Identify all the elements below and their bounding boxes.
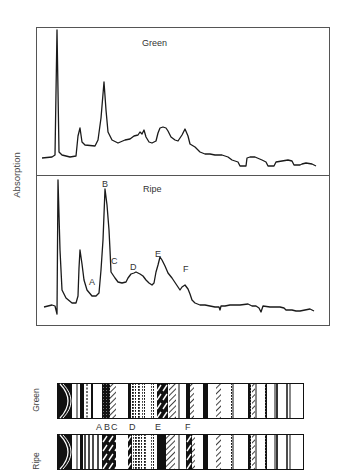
svg-text:C: C — [111, 422, 118, 432]
densitometer-traces: Green Ripe A B C D E F — [0, 0, 344, 340]
panel-title-ripe: Ripe — [143, 184, 162, 194]
peak-label-d: D — [130, 262, 137, 272]
panel-title-green: Green — [142, 38, 167, 48]
peak-label-e: E — [155, 249, 161, 259]
gel-row-label-ripe: Ripe — [31, 446, 43, 472]
peak-label-f: F — [183, 264, 189, 274]
band-label-f: F — [185, 422, 191, 432]
green-trace — [42, 30, 316, 166]
peak-labels: A B C D E F — [89, 179, 189, 287]
gel-strips: A B C D E F — [0, 340, 344, 472]
gel-band-labels: A B C D E F — [96, 422, 191, 432]
band-label-e: E — [155, 422, 161, 432]
ripe-trace — [44, 180, 314, 314]
gel-strip-ripe — [58, 435, 304, 470]
trace-frame — [37, 28, 330, 326]
band-label-abc: A — [96, 422, 102, 432]
band-label-d: D — [129, 422, 136, 432]
peak-label-c: C — [111, 256, 118, 266]
svg-text:B: B — [104, 422, 110, 432]
gel-row-label-green: Green — [31, 385, 43, 415]
peak-label-a: A — [89, 277, 95, 287]
peak-label-b: B — [102, 179, 108, 189]
gel-strip-green — [58, 384, 304, 419]
